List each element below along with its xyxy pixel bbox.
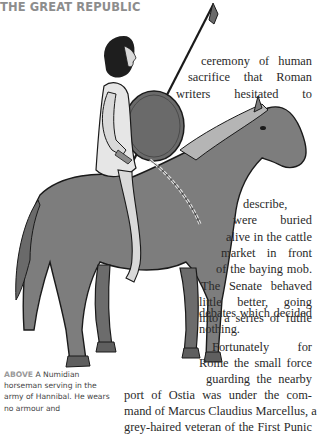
text-line: market in front [221, 245, 312, 261]
text-line: nothing. [199, 321, 239, 337]
text-line: sacrifice that Roman [188, 69, 312, 85]
text-line: were buried [233, 212, 312, 228]
text-line: guarding the nearby [206, 371, 312, 387]
text-line: grey-haired veteran of the First Punic [124, 419, 312, 435]
text-line: port of Ostia was under the com- [124, 387, 312, 403]
text-line: writers hesitated to [176, 86, 312, 102]
text-line: debates which decided [199, 305, 312, 321]
caption-lead: ABOVE [4, 370, 33, 379]
text-line: The Senate behaved [201, 278, 312, 294]
text-line: Rome the small force [199, 355, 312, 371]
text-line: Fortunately for [212, 339, 312, 355]
text-line: mand of Marcus Claudius Marcellus, a [124, 403, 312, 419]
text-line: of the baying mob. [216, 261, 312, 277]
text-line: describe, [243, 196, 293, 212]
text-line: alive in the cattle [226, 229, 312, 245]
text-line: ceremony of human [201, 53, 312, 69]
figure-caption: ABOVE A Numidian horseman serving in the… [4, 369, 112, 414]
